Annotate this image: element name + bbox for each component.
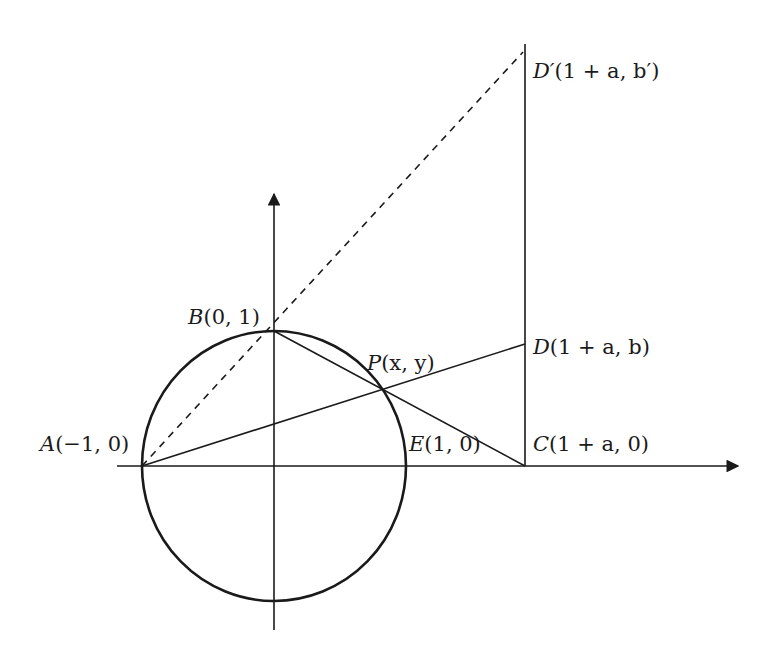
label-b: B(0, 1) — [187, 305, 260, 329]
diagram-canvas: D′(1 + a, b′) B(0, 1) P(x, y) D(1 + a, b… — [0, 0, 779, 662]
label-dprime: D′(1 + a, b′) — [532, 59, 659, 83]
label-c: C(1 + a, 0) — [533, 432, 649, 456]
segment-a-dprime — [142, 52, 523, 466]
label-d: D(1 + a, b) — [532, 335, 650, 359]
label-p: P(x, y) — [366, 351, 435, 375]
label-e: E(1, 0) — [408, 432, 481, 456]
label-a: A(−1, 0) — [38, 432, 129, 456]
